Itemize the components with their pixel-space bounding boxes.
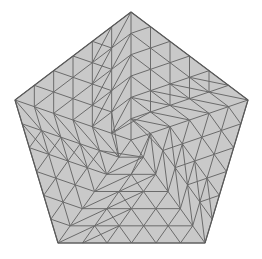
- mesh-figure: Triangulated pentagon mesh: [0, 0, 262, 259]
- mesh-diagram-canvas: Triangulated pentagon mesh: [0, 0, 262, 259]
